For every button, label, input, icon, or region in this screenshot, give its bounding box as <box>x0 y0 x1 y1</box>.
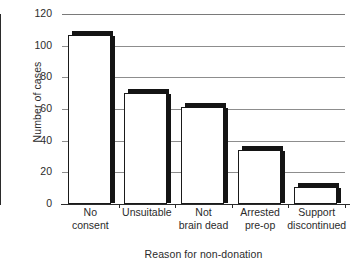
category-label-line1: Not <box>195 206 211 218</box>
bar <box>68 35 111 204</box>
gridline <box>62 14 345 15</box>
y-axis-tick-label: 60 <box>8 103 52 114</box>
category-label-line1: Arrested <box>240 206 280 218</box>
category-label-line1: Unsuitable <box>122 206 172 218</box>
bar-shadow-right <box>166 94 171 203</box>
x-axis-title: Reason for non-donation <box>62 248 345 260</box>
y-axis-tick-label: 120 <box>8 8 52 19</box>
bar <box>294 187 337 204</box>
y-axis-tick-label: 0 <box>8 198 52 209</box>
bar-shadow-right <box>280 151 285 203</box>
y-axis-tick-label: 40 <box>8 135 52 146</box>
bar-shadow-top <box>298 183 339 188</box>
plot-area <box>62 14 345 204</box>
bar-shadow-right <box>336 188 341 203</box>
bar <box>124 93 167 204</box>
y-axis-tick-label: 20 <box>8 166 52 177</box>
y-axis-tick-label: 80 <box>8 71 52 82</box>
bar-shadow-top <box>128 89 169 94</box>
bar-shadow-top <box>242 146 283 151</box>
bar <box>181 107 224 204</box>
category-label-line1: No <box>84 206 97 218</box>
bar-chart-figure: Number of cases 020406080100120 Noconsen… <box>0 0 359 272</box>
y-axis-tick-labels: 020406080100120 <box>0 14 52 205</box>
bar-shadow-top <box>72 31 113 36</box>
category-label-line2: discontinued <box>280 219 353 232</box>
x-axis-tick-labels: NoconsentUnsuitableNotbrain deadArrested… <box>62 206 345 246</box>
bar-shadow-top <box>185 103 226 108</box>
bar <box>238 150 281 204</box>
category-label-line2: consent <box>54 219 127 232</box>
y-axis-tick-label: 100 <box>8 40 52 51</box>
y-axis-line <box>0 14 1 205</box>
category-label-line1: Support <box>298 206 335 218</box>
bar-shadow-right <box>223 108 228 203</box>
bar-shadow-right <box>110 36 115 203</box>
x-axis-category-label: Supportdiscontinued <box>280 206 353 231</box>
x-axis-line <box>61 204 350 205</box>
